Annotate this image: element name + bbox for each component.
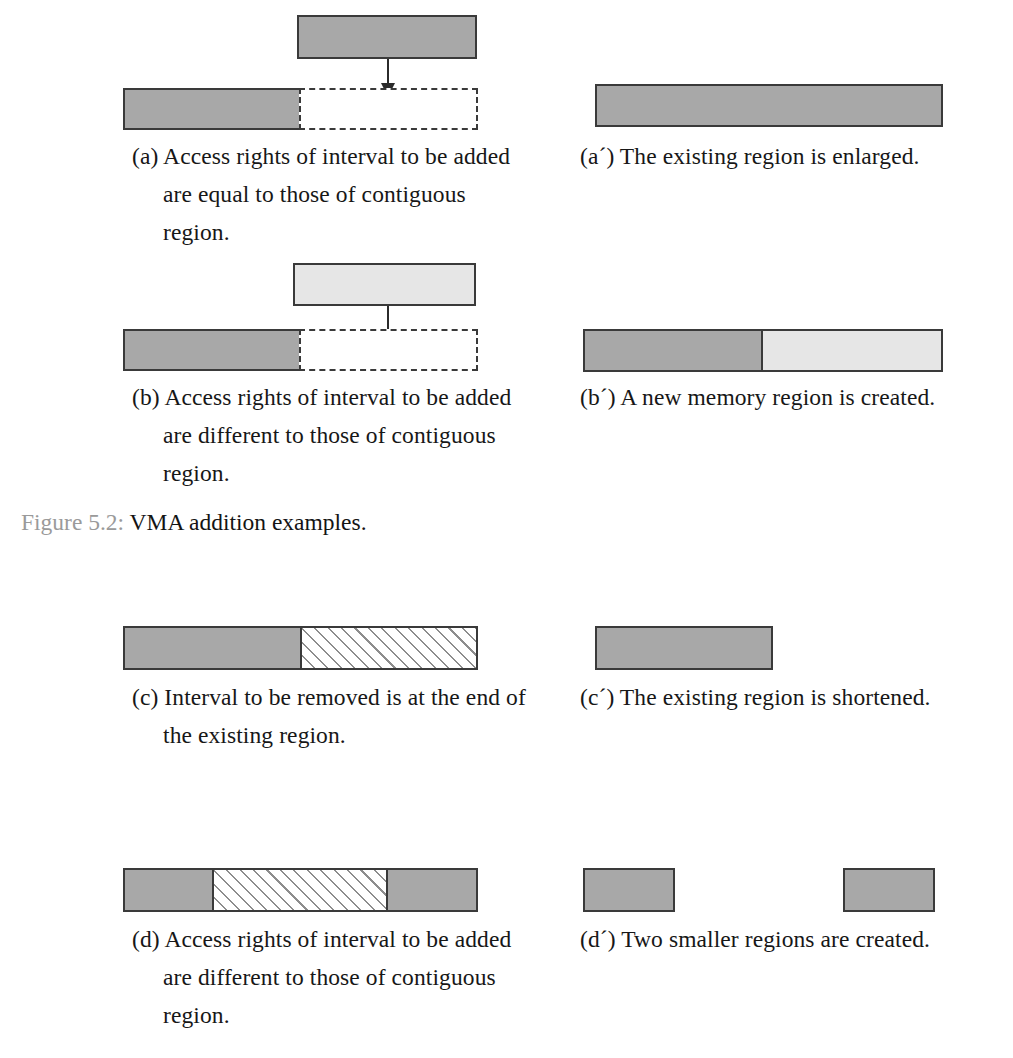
panel-d-caption: (d) Access rights of interval to be adde…: [132, 920, 543, 1034]
panel-c-retained-region-segment: [125, 628, 300, 668]
figure-page: (a) Access rights of interval to be adde…: [0, 0, 1013, 1058]
panel-a-interval-to-add-box: [297, 15, 477, 59]
panel-a-caption: (a) Access rights of interval to be adde…: [132, 137, 533, 251]
panel-d-region-bar: [123, 868, 478, 912]
panel-b-existing-region-box: [123, 329, 301, 371]
panel-d-retained-region-left-segment: [125, 870, 212, 910]
panel-a-target-slot-box: [299, 88, 478, 130]
panel-d-prime-smaller-region-left-box: [583, 868, 675, 912]
panel-a-prime-enlarged-region-box: [595, 84, 943, 127]
panel-c-caption: (c) Interval to be removed is at the end…: [132, 678, 553, 754]
panel-a-prime-caption: (a´) The existing region is enlarged.: [580, 137, 1000, 175]
panel-c-interval-to-remove-segment: [300, 628, 476, 668]
panel-b-prime-new-region-segment: [761, 331, 941, 370]
panel-d-retained-region-right-segment: [386, 870, 476, 910]
panel-b-prime-caption: (b´) A new memory region is created.: [580, 378, 1010, 416]
panel-c-region-bar: [123, 626, 478, 670]
panel-b-caption: (b) Access rights of interval to be adde…: [132, 378, 543, 492]
figure-caption: Figure 5.2: VMA addition examples.: [21, 505, 367, 539]
panel-b-target-slot-box: [299, 329, 478, 371]
figure-caption-label: Figure 5.2:: [21, 509, 124, 535]
figure-caption-title: VMA addition examples.: [130, 509, 367, 535]
panel-b-interval-to-add-box: [293, 263, 476, 306]
panel-c-prime-shortened-region-box: [595, 626, 773, 670]
panel-a-existing-region-box: [123, 88, 301, 130]
panel-b-prime-region-bar: [583, 329, 943, 372]
panel-c-prime-caption: (c´) The existing region is shortened.: [580, 678, 1010, 716]
panel-d-prime-smaller-region-right-box: [843, 868, 935, 912]
panel-d-interval-to-remove-segment: [212, 870, 386, 910]
panel-b-prime-existing-region-segment: [585, 331, 761, 370]
panel-d-prime-caption: (d´) Two smaller regions are created.: [580, 920, 1010, 958]
